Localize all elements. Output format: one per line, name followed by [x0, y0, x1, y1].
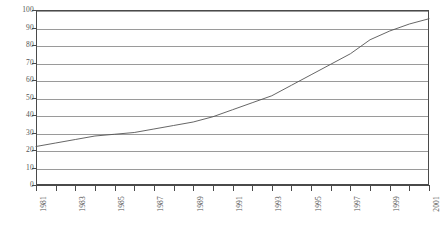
y-axis-tick-label: 40	[4, 111, 34, 119]
x-axis-tick-label: 1985	[118, 196, 126, 212]
x-axis-tick-label: 1987	[157, 196, 165, 212]
gridline	[37, 151, 428, 152]
y-axis-tick-mark	[32, 28, 36, 29]
x-axis-tick-mark	[331, 186, 332, 191]
x-axis-tick-label: 1981	[40, 196, 48, 212]
y-axis-tick-mark	[32, 10, 36, 11]
y-axis-tick-label: 10	[4, 164, 34, 172]
x-axis-tick-label: 1995	[315, 196, 323, 212]
gridline	[37, 169, 428, 170]
y-axis-line	[36, 10, 37, 186]
x-axis-tick-label: 1997	[354, 196, 362, 212]
y-axis-tick-mark	[32, 98, 36, 99]
y-axis-tick-mark	[32, 150, 36, 151]
plot-area	[36, 10, 429, 185]
y-axis-tick-mark	[32, 115, 36, 116]
x-axis-tick-label: 1991	[236, 196, 244, 212]
y-axis-tick-label: 100	[4, 6, 34, 14]
gridline	[37, 64, 428, 65]
x-axis-tick-mark	[95, 186, 96, 191]
x-axis-tick-label: 1993	[275, 196, 283, 212]
y-axis-tick-label: 60	[4, 76, 34, 84]
y-axis-tick-label: 30	[4, 129, 34, 137]
x-axis-tick-label: 1989	[197, 196, 205, 212]
x-axis-tick-mark	[115, 186, 116, 191]
gridlines	[37, 11, 428, 184]
x-axis-tick-mark	[311, 186, 312, 191]
x-axis-tick-mark	[56, 186, 57, 191]
gridline	[37, 29, 428, 30]
y-axis-tick-label: 0	[4, 181, 34, 189]
x-axis-tick-label: 1983	[79, 196, 87, 212]
x-axis-tick-label: 1999	[393, 196, 401, 212]
y-axis-tick-mark	[32, 168, 36, 169]
y-axis-tick-mark	[32, 63, 36, 64]
y-axis-tick-label: 90	[4, 24, 34, 32]
x-axis-tick-mark	[174, 186, 175, 191]
x-axis-tick-mark	[75, 186, 76, 191]
x-axis-tick-label: 2001	[433, 196, 441, 212]
x-axis-tick-mark	[134, 186, 135, 191]
gridline	[37, 46, 428, 47]
y-axis-tick-label: 50	[4, 94, 34, 102]
x-axis-tick-mark	[350, 186, 351, 191]
x-axis-tick-mark	[233, 186, 234, 191]
y-axis-tick-mark	[32, 133, 36, 134]
x-axis-tick-mark	[272, 186, 273, 191]
gridline	[37, 134, 428, 135]
x-axis-tick-mark	[429, 186, 430, 191]
x-axis-tick-mark	[390, 186, 391, 191]
x-axis-tick-mark	[291, 186, 292, 191]
y-axis-tick-label: 80	[4, 41, 34, 49]
y-axis-tick-label: 20	[4, 146, 34, 154]
x-axis-tick-mark	[36, 186, 37, 191]
line-chart: 1009080706050403020100 19811983198519871…	[0, 0, 446, 232]
x-axis-tick-mark	[154, 186, 155, 191]
x-axis-tick-mark	[409, 186, 410, 191]
x-axis-tick-mark	[252, 186, 253, 191]
gridline	[37, 11, 428, 12]
y-axis-tick-mark	[32, 80, 36, 81]
y-axis-tick-label: 70	[4, 59, 34, 67]
gridline	[37, 81, 428, 82]
gridline	[37, 116, 428, 117]
x-axis-tick-mark	[193, 186, 194, 191]
y-axis-tick-mark	[32, 45, 36, 46]
x-axis-tick-mark	[213, 186, 214, 191]
x-axis-tick-mark	[370, 186, 371, 191]
gridline	[37, 99, 428, 100]
y-axis-tick-mark	[32, 185, 36, 186]
y-axis-tick-labels: 1009080706050403020100	[0, 0, 34, 232]
